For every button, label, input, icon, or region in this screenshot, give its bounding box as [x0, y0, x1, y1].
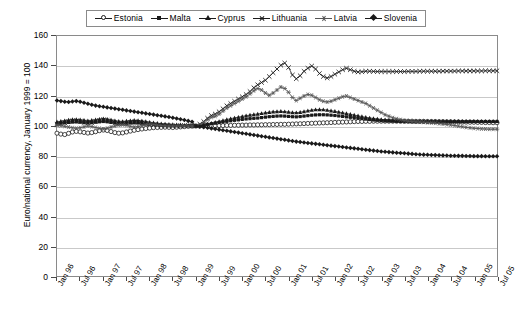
legend-item-lithuania[interactable]: Lithuania: [253, 14, 307, 23]
legend-label: Lithuania: [272, 14, 307, 23]
y-axis-ticks: 020406080100120140160: [0, 35, 56, 277]
chart-legend: EstoniaMaltaCyprusLithuaniaLatviaSloveni…: [86, 10, 426, 27]
y-tick-label: 80: [39, 151, 48, 161]
y-tick-label: 120: [34, 91, 48, 101]
legend-marker-diamond-icon: [365, 14, 382, 23]
y-tick-label: 0: [43, 272, 48, 282]
y-tick-label: 40: [39, 212, 48, 222]
x-axis-ticks: Jan 96Jul 96Jan 97Jul 97Jan 98Jul 98Jan …: [56, 277, 498, 320]
legend-marker-triangle-icon: [199, 14, 216, 23]
legend-label: Latvia: [334, 14, 357, 23]
legend-label: Cyprus: [218, 14, 246, 23]
y-tick-label: 100: [34, 121, 48, 131]
legend-marker-circle-open-icon: [95, 14, 112, 23]
y-tick-label: 60: [39, 181, 48, 191]
plot-area: [56, 35, 498, 277]
legend-marker-x-icon: [253, 14, 270, 23]
series-slovenia: [55, 98, 500, 158]
legend-item-latvia[interactable]: Latvia: [315, 14, 357, 23]
y-tick-label: 20: [39, 242, 48, 252]
y-tick-label: 140: [34, 60, 48, 70]
legend-label: Slovenia: [384, 14, 417, 23]
x-tick-label: Jul 05: [498, 265, 516, 288]
legend-marker-star-icon: [315, 14, 332, 23]
legend-marker-square-small-icon: [151, 14, 168, 23]
series-layer: [57, 36, 497, 276]
legend-label: Estonia: [114, 14, 143, 23]
legend-item-cyprus[interactable]: Cyprus: [199, 14, 246, 23]
y-tick-label: 160: [34, 30, 48, 40]
legend-item-slovenia[interactable]: Slovenia: [365, 14, 417, 23]
legend-label: Malta: [170, 14, 191, 23]
series-lithuania: [55, 61, 499, 128]
legend-item-malta[interactable]: Malta: [151, 14, 191, 23]
legend-item-estonia[interactable]: Estonia: [95, 14, 143, 23]
